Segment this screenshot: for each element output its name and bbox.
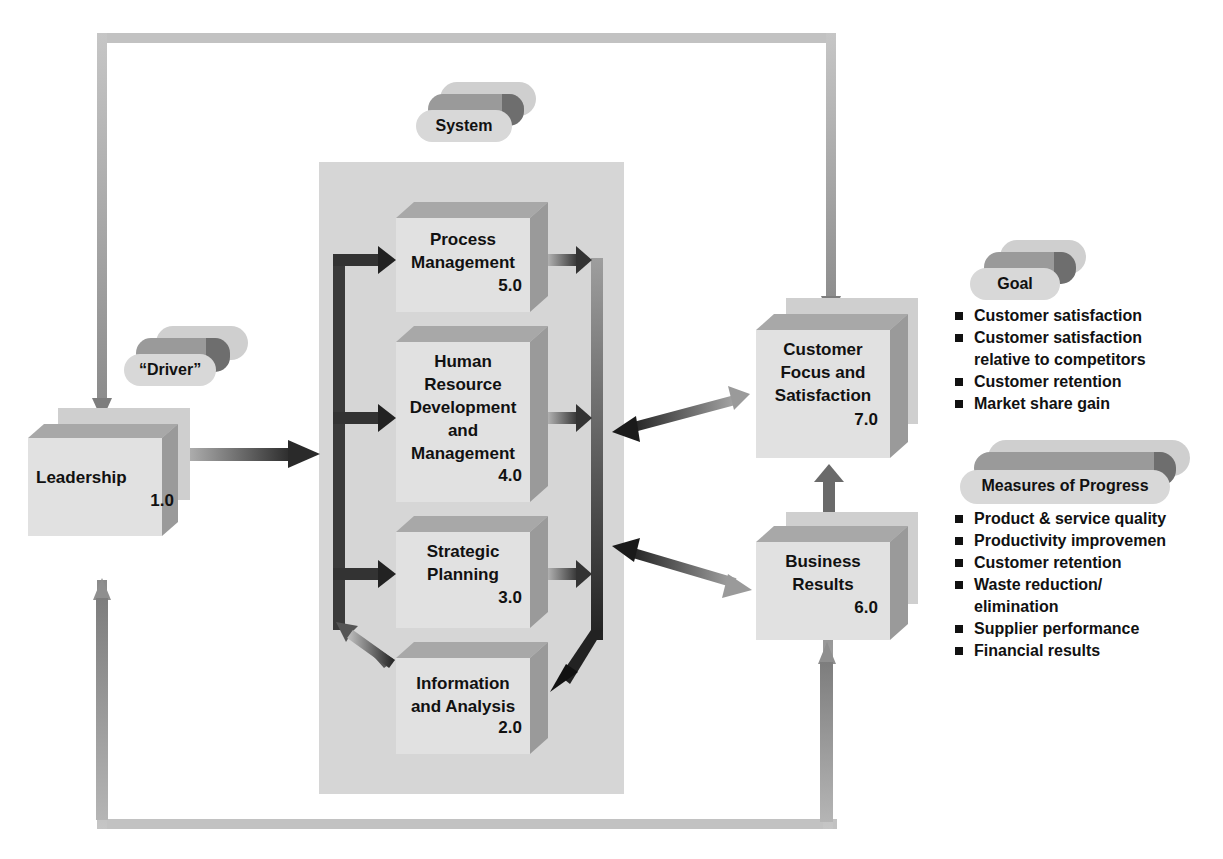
box-customer-focus: Customer Focus and Satisfaction 7.0: [756, 298, 918, 458]
measure-item-line2: elimination: [974, 598, 1058, 615]
measures-label: Measures of Progress: [960, 477, 1170, 495]
measure-item: Product & service quality: [952, 508, 1222, 530]
arrow-up-business: [818, 642, 836, 664]
arrow-up-leadership: [93, 578, 111, 600]
goal-item-line1: Customer satisfaction: [974, 329, 1142, 346]
business-title-line2: Results: [756, 573, 890, 596]
measure-item-line1: Waste reduction/: [974, 576, 1102, 593]
measure-item: Supplier performance: [952, 618, 1222, 640]
measure-item: Customer retention: [952, 552, 1222, 574]
measures-list: Product & service quality Productivity i…: [952, 508, 1222, 662]
measures-pill: Measures of Progress: [960, 440, 1192, 506]
process-number: 5.0: [396, 276, 522, 296]
box-information-analysis: Information and Analysis 2.0: [396, 642, 548, 754]
box-hr-development: Human Resource Development and Managemen…: [396, 326, 548, 502]
info-number: 2.0: [396, 718, 522, 738]
goal-pill: Goal: [970, 240, 1090, 304]
box-strategic-planning: Strategic Planning 3.0: [396, 516, 548, 628]
measure-item: Productivity improvemen: [952, 530, 1222, 552]
strategic-title-line1: Strategic: [396, 540, 530, 563]
hr-title-line2: Resource: [396, 373, 530, 396]
goal-item: Customer satisfactionrelative to competi…: [952, 327, 1222, 371]
process-title-line2: Management: [396, 251, 530, 274]
customer-title-line3: Satisfaction: [756, 384, 890, 407]
goal-label: Goal: [970, 275, 1060, 293]
hr-title-line4: and: [396, 419, 530, 442]
customer-number: 7.0: [756, 410, 878, 430]
goal-item-line2: relative to competitors: [974, 351, 1146, 368]
strategic-title-line2: Planning: [396, 563, 530, 586]
goal-item: Customer satisfaction: [952, 305, 1222, 327]
driver-pill: “Driver”: [122, 326, 246, 390]
box-leadership: Leadership 1.0: [28, 408, 198, 536]
process-title-line1: Process: [396, 228, 530, 251]
customer-title-line2: Focus and: [756, 361, 890, 384]
goal-item: Customer retention: [952, 371, 1222, 393]
hr-title-line5: Management: [396, 442, 530, 465]
leadership-number: 1.0: [88, 491, 174, 511]
info-title-line1: Information: [396, 672, 530, 695]
hr-title-line3: Development: [396, 396, 530, 419]
customer-title-line1: Customer: [756, 338, 890, 361]
measure-item: Waste reduction/elimination: [952, 574, 1222, 618]
business-title-line1: Business: [756, 550, 890, 573]
goal-list: Customer satisfaction Customer satisfact…: [952, 305, 1222, 415]
business-number: 6.0: [756, 598, 878, 618]
system-pill: System: [416, 82, 540, 146]
box-business-results: Business Results 6.0: [756, 512, 918, 640]
hr-title-line1: Human: [396, 350, 530, 373]
goal-item: Market share gain: [952, 393, 1222, 415]
system-label: System: [416, 117, 512, 135]
box-process-management: Process Management 5.0: [396, 202, 548, 312]
strategic-number: 3.0: [396, 588, 522, 608]
measure-item: Financial results: [952, 640, 1222, 662]
hr-number: 4.0: [396, 466, 522, 486]
driver-label: “Driver”: [124, 361, 216, 379]
leadership-title: Leadership: [36, 466, 136, 489]
info-title-line2: and Analysis: [396, 695, 530, 718]
